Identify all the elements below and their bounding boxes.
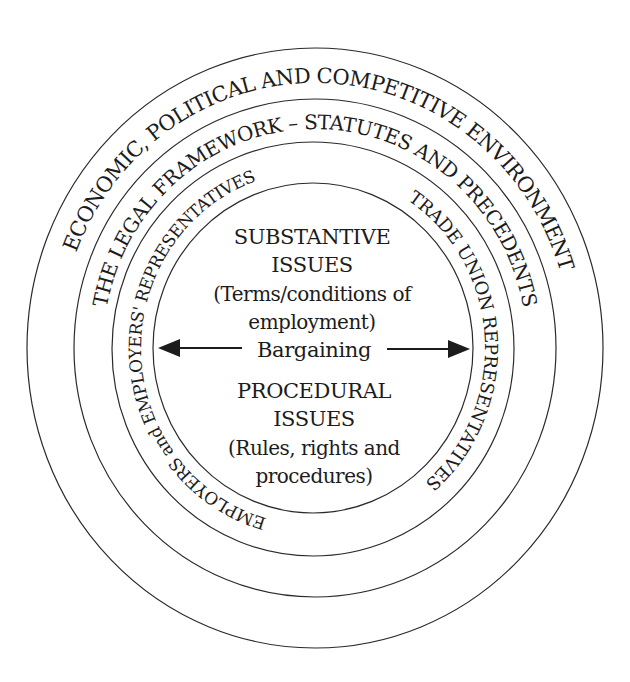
procedural-title: PROCEDURAL (237, 379, 391, 403)
substantive-title: SUBSTANTIVE (234, 225, 391, 249)
bargaining-arrow: Bargaining (158, 338, 470, 362)
right-arrow-head-icon (448, 340, 470, 358)
substantive-description-2: employment) (248, 310, 375, 334)
left-arrow-head-icon (158, 339, 180, 357)
trade-union-label: TRADE UNION REPRESENTATIVES (405, 186, 502, 495)
bargaining-context-diagram: ECONOMIC, POLITICAL AND COMPETITIVE ENVI… (0, 0, 630, 682)
procedural-title-issues: ISSUES (273, 407, 355, 431)
procedural-description: (Rules, rights and (228, 436, 401, 460)
substantive-issues: SUBSTANTIVE ISSUES (Terms/conditions of … (213, 225, 413, 334)
procedural-description-2: procedures) (255, 464, 372, 488)
substantive-title-issues: ISSUES (271, 253, 353, 277)
substantive-description: (Terms/conditions of (213, 282, 413, 306)
bargaining-label: Bargaining (257, 338, 371, 362)
procedural-issues: PROCEDURAL ISSUES (Rules, rights and pro… (228, 379, 401, 488)
